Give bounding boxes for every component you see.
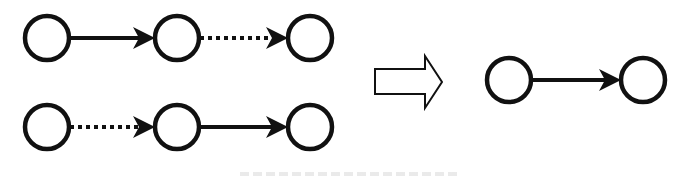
- arrowhead-icon: [266, 27, 288, 49]
- bottom-chain: [25, 105, 332, 149]
- caption-text: [240, 172, 460, 176]
- graph-node: [25, 16, 69, 60]
- graph-node: [155, 16, 199, 60]
- graph-node: [621, 58, 665, 102]
- graph-node: [155, 105, 199, 149]
- top-chain: [25, 16, 332, 60]
- graph-node: [288, 105, 332, 149]
- result-graph: [487, 58, 665, 102]
- figure-caption-clipped: [0, 168, 684, 176]
- graph-node: [487, 58, 531, 102]
- graph-node: [25, 105, 69, 149]
- hollow-right-arrow-icon: [375, 56, 442, 108]
- graph-transformation-diagram: [0, 0, 684, 176]
- graph-node: [288, 16, 332, 60]
